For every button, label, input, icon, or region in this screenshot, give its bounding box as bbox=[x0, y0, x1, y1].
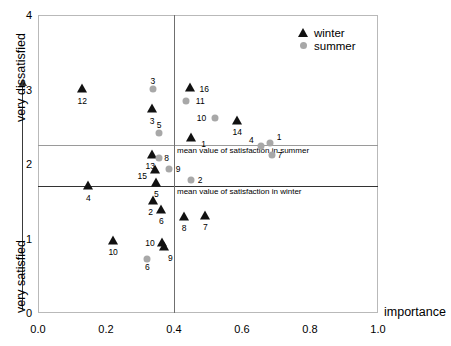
data-point-winter-16 bbox=[185, 83, 195, 92]
data-point-label-summer-10: 10 bbox=[197, 113, 206, 123]
data-point-label-summer-3: 3 bbox=[151, 76, 156, 86]
data-point-label-summer-2: 2 bbox=[198, 175, 203, 185]
data-point-label-winter-10: 10 bbox=[108, 247, 117, 257]
x-tick-label-0: 0.0 bbox=[30, 323, 45, 335]
data-point-winter-6 bbox=[156, 205, 166, 214]
legend-item-summer: summer bbox=[296, 39, 356, 52]
data-point-summer-9 bbox=[166, 166, 173, 173]
reference-line-vertical bbox=[174, 15, 175, 313]
data-point-label-summer-9: 9 bbox=[176, 164, 181, 174]
data-point-label-winter-16: 16 bbox=[200, 84, 209, 94]
x-tick-label-5: 1.0 bbox=[370, 323, 385, 335]
data-point-winter-10 bbox=[108, 235, 118, 244]
y-tick-label-2: 2 bbox=[18, 158, 32, 170]
data-point-label-winter-2: 2 bbox=[148, 207, 153, 217]
data-point-label-winter-9: 9 bbox=[168, 253, 173, 263]
data-point-winter-2 bbox=[148, 196, 158, 205]
data-point-summer-4 bbox=[258, 143, 265, 150]
data-point-label-winter-12: 12 bbox=[77, 96, 86, 106]
x-tick-label-3: 0.6 bbox=[234, 323, 249, 335]
data-point-label-winter-8: 8 bbox=[182, 223, 187, 233]
data-point-label-summer-6: 6 bbox=[145, 262, 150, 272]
data-point-summer-8 bbox=[155, 155, 162, 162]
data-point-winter-3 bbox=[147, 103, 157, 112]
data-point-label-summer-7: 7 bbox=[278, 150, 283, 160]
y-axis-title-top: very dissatisfied bbox=[14, 33, 28, 122]
data-point-winter-4 bbox=[83, 180, 93, 189]
data-point-label-winter-4: 4 bbox=[86, 193, 91, 203]
circle-marker-icon bbox=[296, 39, 310, 52]
x-tick-label-1: 0.2 bbox=[98, 323, 113, 335]
data-point-winter-8 bbox=[179, 211, 189, 220]
chart-canvas: mean value of satisfaction in summermean… bbox=[0, 0, 451, 346]
data-point-label-winter-15: 15 bbox=[138, 171, 147, 181]
data-point-winter-5 bbox=[151, 177, 161, 186]
data-point-label-summer-1: 1 bbox=[277, 132, 282, 142]
data-point-label-summer-8: 8 bbox=[164, 153, 169, 163]
triangle-marker-icon bbox=[296, 26, 310, 39]
data-point-label-winter-6: 6 bbox=[159, 216, 164, 226]
data-point-summer-3 bbox=[149, 85, 156, 92]
data-point-winter-9 bbox=[159, 242, 169, 251]
reference-line-label-1: mean value of satisfaction in summer bbox=[177, 146, 309, 155]
data-point-winter-15 bbox=[150, 165, 160, 174]
data-point-label-summer-11: 11 bbox=[196, 96, 205, 106]
data-point-summer-2 bbox=[188, 177, 195, 184]
data-point-summer-11 bbox=[183, 97, 190, 104]
legend: winter summer bbox=[296, 26, 356, 52]
data-point-label-winter-10: 10 bbox=[145, 238, 154, 248]
data-point-summer-10 bbox=[212, 114, 219, 121]
data-point-winter-14 bbox=[232, 115, 242, 124]
reference-line-label-2: mean value of satisfaction in winter bbox=[177, 187, 302, 196]
data-point-summer-5 bbox=[156, 129, 163, 136]
data-point-label-winter-1: 1 bbox=[201, 139, 206, 149]
x-tick-label-4: 0.8 bbox=[302, 323, 317, 335]
y-axis-title-bottom: very satisfied bbox=[14, 240, 28, 313]
data-point-label-summer-4: 4 bbox=[249, 135, 254, 145]
data-point-label-winter-7: 7 bbox=[203, 222, 208, 232]
x-tick-label-2: 0.4 bbox=[166, 323, 181, 335]
data-point-winter-7 bbox=[200, 211, 210, 220]
data-point-label-summer-5: 5 bbox=[157, 120, 162, 130]
legend-label-summer: summer bbox=[314, 40, 356, 52]
data-point-summer-7 bbox=[268, 152, 275, 159]
data-point-winter-12 bbox=[77, 83, 87, 92]
plot-area bbox=[38, 15, 378, 313]
x-axis-title: importance bbox=[384, 305, 446, 319]
legend-item-winter: winter bbox=[296, 26, 356, 39]
data-point-summer-1 bbox=[267, 140, 274, 147]
y-tick-label-4: 4 bbox=[18, 9, 32, 21]
legend-label-winter: winter bbox=[314, 27, 345, 39]
data-point-label-winter-3: 3 bbox=[150, 116, 155, 126]
data-point-label-winter-14: 14 bbox=[233, 127, 242, 137]
data-point-winter-1 bbox=[186, 133, 196, 142]
